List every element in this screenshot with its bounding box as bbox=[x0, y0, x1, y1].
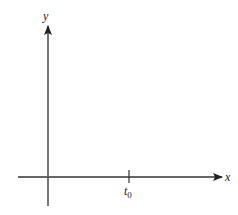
y-axis-label-text: y bbox=[42, 9, 49, 23]
y-axis-label: y bbox=[42, 9, 49, 23]
t0-tick-label: t0 bbox=[124, 184, 132, 200]
t0-label-subscript: 0 bbox=[127, 190, 132, 200]
coordinate-axes-diagram: y x t0 bbox=[0, 0, 238, 215]
x-axis-label-text: x bbox=[224, 170, 231, 184]
x-axis-label: x bbox=[224, 170, 231, 184]
